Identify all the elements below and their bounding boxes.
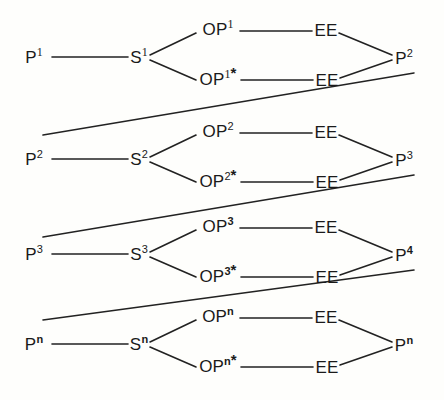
row4-node-ee-upper: EE: [314, 309, 337, 326]
row2-bond-s-to-op-upper: [150, 135, 196, 157]
row3-node-s: S3: [130, 246, 148, 263]
row4-bond-ee-to-p-lower: [340, 347, 392, 365]
row1-node-s: S1: [130, 49, 148, 66]
row3-bond-ee-to-p-lower: [340, 257, 392, 275]
row3-bond-s-to-op-upper: [150, 230, 196, 252]
row2-bond-s-to-op-lower: [150, 162, 196, 182]
row1-bond-ee-to-p-upper: [339, 33, 392, 55]
row2-node-op-lower: OP2*: [199, 173, 236, 190]
row4-node-op-upper: OPn: [202, 308, 234, 325]
row3-node-op-upper: OP3: [202, 218, 233, 235]
row1-node-ee-upper: EE: [314, 22, 337, 39]
row1-node-ee-lower: EE: [315, 72, 338, 89]
row1-node-op-lower: OP1*: [199, 71, 236, 88]
row3-node-ee-upper: EE: [314, 219, 337, 236]
row3-bond-ee-to-p-upper: [339, 230, 392, 252]
diagram-connector-lines: [0, 0, 444, 400]
row1-bond-s-to-op-lower: [150, 60, 196, 80]
row1-node-p-left: P1: [25, 49, 43, 66]
diagram-canvas: P1 S1 OP1 OP1* EE EE P2 P2 S2 OP2 OP2* E…: [0, 0, 444, 400]
row1-node-p-right: P2: [395, 50, 413, 67]
row2-bond-ee-to-p-lower: [340, 162, 392, 180]
row4-bond-s-to-op-upper: [150, 320, 196, 342]
row4-bond-s-to-op-lower: [150, 347, 196, 367]
row2-bond-ee-to-p-upper: [339, 135, 392, 157]
row4-node-op-lower: OPn*: [199, 358, 237, 375]
row3-node-ee-lower: EE: [315, 269, 338, 286]
row4-node-ee-lower: EE: [315, 359, 338, 376]
row2-node-p-right: P3: [395, 152, 413, 169]
row2-node-op-upper: OP2: [202, 123, 233, 140]
row4-node-p-left: Pn: [25, 336, 43, 353]
row2-node-s: S2: [130, 151, 148, 168]
row2-node-p-left: P2: [25, 151, 43, 168]
row1-node-op-upper: OP1: [203, 21, 234, 38]
row3-bond-s-to-op-lower: [150, 257, 196, 277]
row2-node-ee-upper: EE: [314, 124, 337, 141]
row1-bond-ee-to-p-lower: [340, 60, 392, 78]
row3-node-op-lower: OP3*: [199, 268, 236, 285]
row4-node-p-right: Pn: [395, 337, 413, 354]
row2-node-ee-lower: EE: [315, 174, 338, 191]
row4-bond-ee-to-p-upper: [339, 320, 392, 342]
row1-bond-s-to-op-upper: [150, 33, 196, 55]
row4-node-s: Sn: [130, 336, 148, 353]
row3-node-p-left: P3: [25, 246, 43, 263]
row3-node-p-right: P4: [395, 247, 413, 264]
